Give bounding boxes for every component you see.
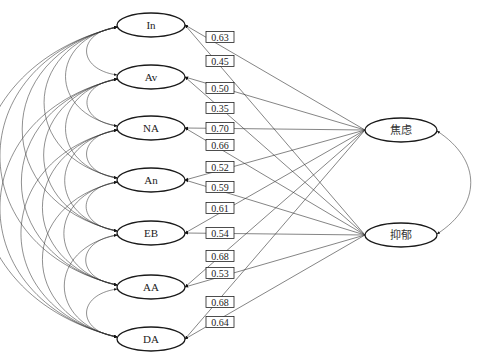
svg-text:EB: EB — [144, 227, 158, 239]
node-An: An — [117, 168, 185, 192]
covariance-arc-NA-An — [87, 130, 117, 178]
svg-text:NA: NA — [143, 122, 159, 134]
node-depression: 抑郁 — [365, 223, 437, 247]
covariance-arc-In-Av — [87, 27, 117, 75]
svg-text:0.63: 0.63 — [211, 32, 229, 43]
svg-text:0.64: 0.64 — [211, 317, 229, 328]
covariance-arc-An-EB — [86, 182, 117, 231]
variable-nodes: InAvNAAnEBAADA焦虑抑郁 — [117, 13, 437, 351]
coefficient-label: 0.45 — [206, 56, 234, 67]
svg-text:0.61: 0.61 — [211, 203, 229, 214]
svg-text:0.50: 0.50 — [211, 83, 229, 94]
covariance-arc-An-DA — [42, 182, 117, 337]
covariance-arc-Av-DA — [0, 79, 117, 337]
covariance-arc-An-AA — [64, 182, 117, 285]
svg-text:0.68: 0.68 — [211, 297, 229, 308]
coefficient-labels: 0.630.450.500.350.700.660.520.590.610.54… — [206, 32, 234, 328]
covariance-arc-Av-EB — [44, 79, 117, 231]
node-EB: EB — [117, 221, 185, 245]
coefficient-label: 0.50 — [206, 83, 234, 94]
svg-text:Av: Av — [145, 71, 158, 83]
covariance-arc-anxiety-depression — [437, 131, 471, 234]
node-Av: Av — [117, 65, 185, 89]
node-anxiety: 焦虑 — [365, 118, 437, 142]
svg-text:0.35: 0.35 — [211, 103, 229, 114]
svg-text:0.59: 0.59 — [211, 182, 229, 193]
covariance-arc-NA-AA — [42, 130, 117, 285]
svg-text:0.53: 0.53 — [211, 268, 229, 279]
svg-text:AA: AA — [143, 281, 159, 293]
covariance-arc-In-An — [44, 27, 117, 178]
covariance-arc-Av-An — [66, 79, 117, 178]
svg-text:An: An — [144, 174, 158, 186]
covariance-arc-In-NA — [66, 27, 117, 126]
coefficient-label: 0.59 — [206, 182, 234, 193]
svg-text:0.70: 0.70 — [211, 123, 229, 134]
node-AA: AA — [117, 275, 185, 299]
covariance-arc-EB-DA — [64, 235, 117, 337]
coefficient-label: 0.53 — [206, 268, 234, 279]
coefficient-label: 0.63 — [206, 32, 234, 43]
svg-text:0.66: 0.66 — [211, 140, 229, 151]
svg-text:In: In — [146, 19, 156, 31]
sem-path-diagram: InAvNAAnEBAADA焦虑抑郁 0.630.450.500.350.700… — [0, 0, 478, 356]
covariance-arc-AA-DA — [87, 289, 117, 337]
svg-text:0.45: 0.45 — [211, 56, 229, 67]
svg-text:DA: DA — [143, 333, 159, 345]
node-NA: NA — [117, 116, 185, 140]
coefficient-label: 0.64 — [206, 317, 234, 328]
svg-text:0.54: 0.54 — [211, 228, 229, 239]
coefficient-label: 0.68 — [206, 251, 234, 262]
coefficient-label: 0.70 — [206, 123, 234, 134]
covariance-arc-EB-AA — [86, 235, 117, 285]
covariance-arc-Av-NA — [87, 79, 117, 126]
svg-text:抑郁: 抑郁 — [390, 228, 412, 242]
svg-text:0.68: 0.68 — [211, 251, 229, 262]
coefficient-label: 0.35 — [206, 103, 234, 114]
covariance-arcs — [0, 27, 471, 337]
svg-text:焦虑: 焦虑 — [390, 124, 412, 137]
node-In: In — [117, 13, 185, 37]
coefficient-label: 0.66 — [206, 140, 234, 151]
covariance-arc-In-AA — [0, 27, 117, 285]
coefficient-label: 0.52 — [206, 162, 234, 173]
covariance-arc-In-DA — [0, 27, 117, 337]
node-DA: DA — [117, 327, 185, 351]
coefficient-label: 0.68 — [206, 297, 234, 308]
svg-text:0.52: 0.52 — [211, 162, 229, 173]
coefficient-label: 0.54 — [206, 228, 234, 239]
coefficient-label: 0.61 — [206, 203, 234, 214]
covariance-arc-NA-EB — [65, 130, 117, 231]
